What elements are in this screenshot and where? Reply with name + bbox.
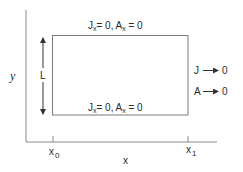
tick-label-x1-sub: 1 (192, 149, 197, 158)
diagram-canvas: L y x x0 x1 Jx= 0,Ax = 0 Jx= 0,Ax = 0 J … (0, 0, 243, 172)
top-j-eq: = 0, (97, 20, 114, 31)
tick-label-x0-base: x (49, 146, 54, 157)
y-axis-label: y (9, 69, 16, 83)
x-axis-label: x (123, 155, 128, 166)
top-a-eq: = 0 (126, 20, 143, 31)
right-condition-j-var: J (194, 65, 199, 76)
bottom-boundary-condition: Jx= 0,Ax = 0 (88, 102, 143, 114)
tick-label-x0-sub: 0 (55, 151, 60, 160)
tick-label-x1-base: x (186, 144, 191, 155)
right-condition-j-value: 0 (222, 65, 228, 76)
bottom-j-eq: = 0, (97, 102, 114, 113)
height-label: L (40, 70, 46, 81)
bottom-a-eq: = 0 (126, 102, 143, 113)
top-boundary-condition: Jx= 0,Ax = 0 (88, 20, 143, 32)
tick-label-x0: x0 (49, 146, 60, 160)
right-condition-a-value: 0 (222, 86, 228, 97)
right-condition-a-var: A (194, 86, 201, 97)
tick-label-x1: x1 (186, 144, 197, 158)
